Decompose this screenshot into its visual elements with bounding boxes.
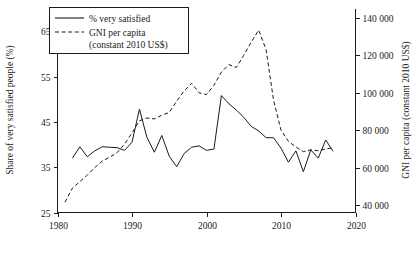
- y-axis-left-ticks: 2535455565: [41, 27, 58, 219]
- y-axis-left-title: Share of very satisfied people (%): [5, 45, 16, 175]
- x-tick-label: 1980: [49, 221, 68, 231]
- y2-tick-label: 120 000: [363, 51, 394, 61]
- legend-label-percent-very-satisfied: % very satisfied: [89, 14, 150, 24]
- x-tick-label: 2000: [198, 221, 217, 231]
- y2-tick-label: 140 000: [363, 14, 394, 24]
- legend-label-gni-per-capita: GNI per capita: [89, 28, 146, 38]
- line-chart: 19801990200020102020 2535455565 40 00060…: [0, 0, 416, 254]
- y-tick-label: 45: [41, 118, 51, 128]
- x-tick-label: 2020: [347, 221, 366, 231]
- y2-tick-label: 40 000: [363, 201, 389, 211]
- chart-figure: 19801990200020102020 2535455565 40 00060…: [0, 0, 416, 254]
- percent-very-satisfied-line: [72, 96, 333, 172]
- legend-label-gni-per-capita-units: (constant 2010 US$): [89, 40, 168, 51]
- data-series-group: [65, 30, 333, 202]
- y-axis-right-ticks: 40 00060 00080 000100 000120 000140 000: [356, 14, 394, 211]
- x-axis-ticks: 19801990200020102020: [49, 213, 366, 231]
- gni-per-capita-line: [65, 30, 333, 202]
- y-tick-label: 35: [41, 163, 51, 173]
- x-tick-label: 1990: [123, 221, 142, 231]
- y2-tick-label: 100 000: [363, 89, 394, 99]
- chart-legend: % very satisfied GNI per capita (constan…: [50, 8, 189, 54]
- y-tick-label: 55: [41, 73, 51, 83]
- x-tick-label: 2010: [272, 221, 291, 231]
- y-axis-right-title: GNI per capita (constant 2010 US$): [401, 41, 412, 178]
- y-tick-label: 25: [41, 209, 51, 219]
- y2-tick-label: 80 000: [363, 126, 389, 136]
- y2-tick-label: 60 000: [363, 164, 389, 174]
